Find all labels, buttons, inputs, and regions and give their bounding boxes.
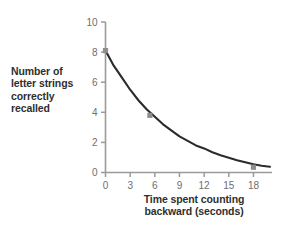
y-tick-label-6: 6	[92, 77, 98, 88]
data-point-marker-0	[103, 48, 108, 53]
data-series	[106, 51, 270, 167]
y-tick-label-4: 4	[92, 107, 98, 118]
x-axis: 0369121518	[103, 173, 272, 191]
x-tick-label-9: 9	[177, 180, 183, 191]
y-tick-label-0: 0	[92, 167, 98, 178]
y-tick-label-8: 8	[92, 47, 98, 58]
x-tick-label-15: 15	[223, 180, 235, 191]
x-tick-label-0: 0	[103, 180, 109, 191]
y-tick-label-2: 2	[92, 137, 98, 148]
plot-area: 0246810 0369121518	[0, 0, 291, 227]
data-point-marker-1	[147, 113, 152, 118]
data-markers	[103, 48, 256, 170]
x-tick-label-12: 12	[199, 180, 211, 191]
x-tick-label-3: 3	[127, 180, 133, 191]
y-tick-label-10: 10	[86, 17, 98, 28]
data-point-marker-2	[251, 165, 256, 170]
x-tick-label-6: 6	[152, 180, 158, 191]
decay-curve	[106, 51, 270, 167]
x-tick-label-18: 18	[248, 180, 260, 191]
y-axis: 0246810	[86, 17, 105, 179]
chart-figure: Number of letter strings correctly recal…	[0, 0, 291, 227]
